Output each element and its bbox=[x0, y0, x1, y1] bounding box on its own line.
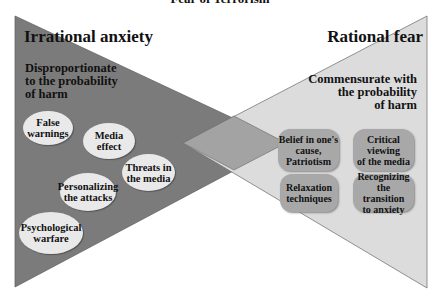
label-line: Threats in bbox=[125, 162, 171, 173]
label-line: Media bbox=[95, 130, 124, 141]
label-line: Relaxation bbox=[286, 182, 332, 193]
label-line: of the media bbox=[357, 156, 410, 167]
label-line: warnings bbox=[27, 128, 68, 139]
label-line: Belief in one's bbox=[279, 134, 338, 145]
irrational-anxiety-heading: Irrational anxiety bbox=[24, 27, 153, 47]
label-line: techniques bbox=[286, 193, 332, 204]
label-line: Patriotism bbox=[279, 156, 338, 167]
label-line: Personalizing bbox=[58, 181, 119, 192]
label-line: the media bbox=[125, 173, 171, 184]
subheading-line: of harm bbox=[25, 88, 118, 101]
label-line: Recognizing the bbox=[353, 171, 414, 193]
subheading-line: of harm bbox=[308, 99, 417, 112]
label-line: False bbox=[27, 117, 68, 128]
label-line: Critical bbox=[357, 134, 410, 145]
rational-fear-heading: Rational fear bbox=[327, 27, 423, 47]
irrational-subheading: Disproportionate to the probability of h… bbox=[25, 62, 118, 101]
rational-subheading: Commensurate with the probability of har… bbox=[308, 73, 417, 112]
label-line: effect bbox=[95, 141, 124, 152]
label-line: warfare bbox=[21, 233, 82, 244]
ellipse-false-warnings: Falsewarnings bbox=[23, 111, 73, 145]
label-line: the attacks bbox=[58, 192, 119, 203]
box-recognizing-transition: Recognizing thetransitionto anxiety bbox=[353, 174, 414, 212]
label-line: Psychological bbox=[21, 222, 82, 233]
label-line: transition bbox=[353, 193, 414, 204]
label-line: cause, bbox=[279, 145, 338, 156]
box-belief-patriotism: Belief in one'scause,Patriotism bbox=[278, 129, 339, 171]
ellipse-personalizing-attacks: Personalizingthe attacks bbox=[60, 173, 116, 211]
diagram-title: Fear of Terrorism bbox=[0, 0, 440, 7]
ellipse-threats-in-media: Threats inthe media bbox=[122, 154, 175, 191]
ellipse-psychological-warfare: Psychologicalwarfare bbox=[19, 212, 83, 254]
ellipse-media-effect: Mediaeffect bbox=[83, 123, 135, 159]
box-critical-viewing: Criticalviewingof the media bbox=[353, 129, 414, 171]
label-line: viewing bbox=[357, 145, 410, 156]
box-relaxation-techniques: Relaxationtechniques bbox=[280, 174, 338, 212]
label-line: to anxiety bbox=[353, 204, 414, 215]
